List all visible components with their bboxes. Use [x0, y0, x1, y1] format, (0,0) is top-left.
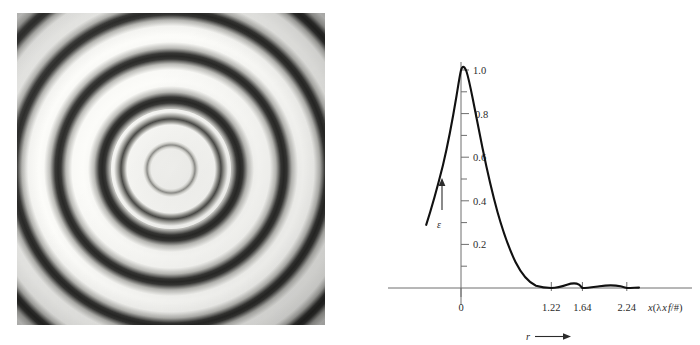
x-axis-title: x(λxf/#): [647, 302, 683, 314]
y-tick-label-0.2: 0.2: [473, 239, 486, 250]
central-airy-disk: [111, 109, 231, 229]
airy-pattern-photograph: [17, 13, 325, 325]
airy-irradiance-curve: [426, 67, 639, 288]
y-axis-arrow: [439, 178, 446, 210]
x-tick-marks: [461, 282, 627, 297]
irradiance-profile-plot: 1.0 0.8 0.6 0.4 0.2 ε 0 1.22 1.64 2.24 x…: [380, 20, 700, 345]
x-axis-title-var2: x: [661, 302, 667, 313]
y-axis-label-epsilon: ε: [437, 219, 441, 230]
x-tick-label-2.24: 2.24: [618, 302, 637, 313]
x-axis-title-close: ): [679, 302, 683, 314]
x-tick-label-1.64: 1.64: [573, 302, 592, 313]
x-tick-label-0: 0: [458, 302, 463, 313]
x-axis-title-lambda: λ: [656, 302, 662, 313]
y-tick-label-0.4: 0.4: [473, 196, 487, 207]
y-tick-marks: [461, 70, 469, 266]
secondary-x-axis-label: r: [526, 331, 531, 342]
x-tick-label-1.22: 1.22: [542, 302, 560, 313]
secondary-x-axis-arrow: [535, 333, 571, 340]
y-tick-label-1.0: 1.0: [473, 65, 486, 76]
plot-canvas: 1.0 0.8 0.6 0.4 0.2 ε 0 1.22 1.64 2.24 x…: [380, 20, 700, 345]
